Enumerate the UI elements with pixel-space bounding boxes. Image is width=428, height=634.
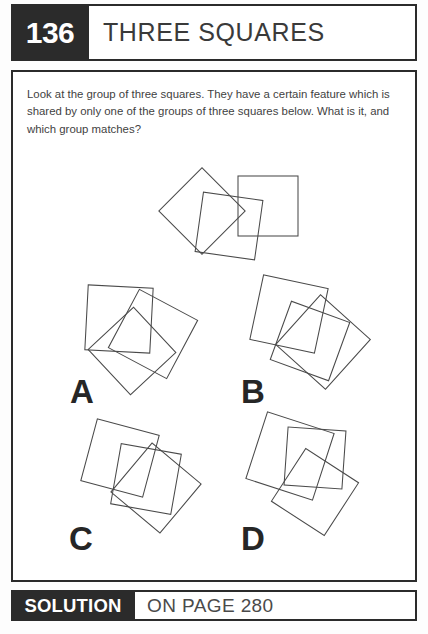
option-d-label: D (241, 522, 265, 555)
square-3 (111, 443, 201, 533)
square-1 (250, 275, 328, 353)
solution-reference-container: ON PAGE 280 (135, 592, 415, 619)
square-1 (81, 419, 159, 497)
puzzle-title-container: THREE SQUARES (89, 4, 417, 61)
option-a-label: A (70, 375, 94, 408)
square-3 (276, 295, 371, 390)
square-2 (108, 289, 197, 378)
square-2 (270, 301, 349, 380)
square-1 (246, 412, 334, 500)
solution-label: SOLUTION (11, 590, 135, 621)
puzzle-content-panel: Look at the group of three squares. They… (11, 70, 417, 582)
solution-page-reference: ON PAGE 280 (147, 595, 274, 617)
square-2 (195, 192, 263, 260)
square-2 (284, 427, 346, 489)
reference-group-svg (141, 162, 316, 267)
option-b-label: B (241, 375, 265, 408)
option-c-label: C (69, 522, 93, 555)
reference-figure (141, 162, 316, 267)
page-title: THREE SQUARES (103, 18, 325, 47)
puzzle-page: 136 THREE SQUARES Look at the group of t… (0, 0, 428, 634)
page-header: 136 THREE SQUARES (11, 4, 417, 61)
square-1 (159, 168, 245, 254)
puzzle-number-badge: 136 (11, 4, 89, 61)
square-3 (238, 176, 298, 236)
solution-footer: SOLUTION ON PAGE 280 (11, 590, 417, 621)
instruction-text: Look at the group of three squares. They… (27, 86, 399, 138)
